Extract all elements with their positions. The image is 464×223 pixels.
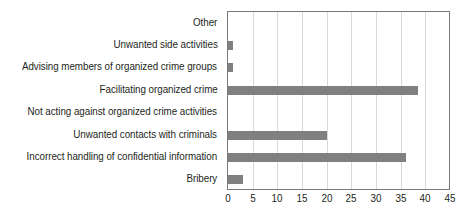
x-tick-label: 20	[321, 192, 332, 204]
category-label: Not acting against organized crime activ…	[28, 106, 222, 117]
bar-row	[228, 146, 449, 168]
category-label-row: Facilitating organized crime	[0, 78, 222, 100]
category-label-row: Advising members of organized crime grou…	[0, 56, 222, 78]
bar	[228, 131, 327, 140]
category-label-row: Bribery	[0, 168, 222, 190]
x-tick-label: 35	[395, 192, 406, 204]
bar	[228, 41, 233, 50]
x-tick-label: 45	[445, 192, 456, 204]
category-label: Facilitating organized crime	[99, 84, 222, 95]
bar	[228, 175, 243, 184]
bar	[228, 63, 233, 72]
bar	[228, 153, 406, 162]
category-label: Unwanted side activities	[113, 39, 222, 50]
category-label-row: Not acting against organized crime activ…	[0, 101, 222, 123]
category-label: Bribery	[187, 173, 222, 184]
bar-row	[228, 34, 449, 56]
category-label: Unwanted contacts with criminals	[74, 129, 222, 140]
x-tick-label: 40	[420, 192, 431, 204]
plot-area	[227, 11, 450, 190]
bar-row	[228, 57, 449, 79]
bar	[228, 86, 418, 95]
x-tick-label: 10	[272, 192, 283, 204]
value-axis: 051015202530354045	[227, 192, 450, 208]
category-label: Incorrect handling of confidential infor…	[27, 151, 222, 162]
category-label-row: Other	[0, 11, 222, 33]
bar-row	[228, 12, 449, 34]
x-tick-label: 15	[297, 192, 308, 204]
bar-row	[228, 102, 449, 124]
x-tick-label: 5	[250, 192, 255, 204]
category-label-row: Unwanted side activities	[0, 33, 222, 55]
bar-row	[228, 169, 449, 190]
category-label-row: Incorrect handling of confidential infor…	[0, 145, 222, 167]
x-tick-label: 30	[371, 192, 382, 204]
category-axis: OtherUnwanted side activitiesAdvising me…	[0, 11, 222, 190]
x-tick-label: 0	[225, 192, 230, 204]
x-tick-label: 25	[346, 192, 357, 204]
category-label-row: Unwanted contacts with criminals	[0, 123, 222, 145]
category-label: Advising members of organized crime grou…	[22, 61, 222, 72]
bar-row	[228, 79, 449, 101]
bar-chart: OtherUnwanted side activitiesAdvising me…	[0, 0, 464, 223]
bar-row	[228, 124, 449, 146]
category-label: Other	[193, 17, 222, 28]
